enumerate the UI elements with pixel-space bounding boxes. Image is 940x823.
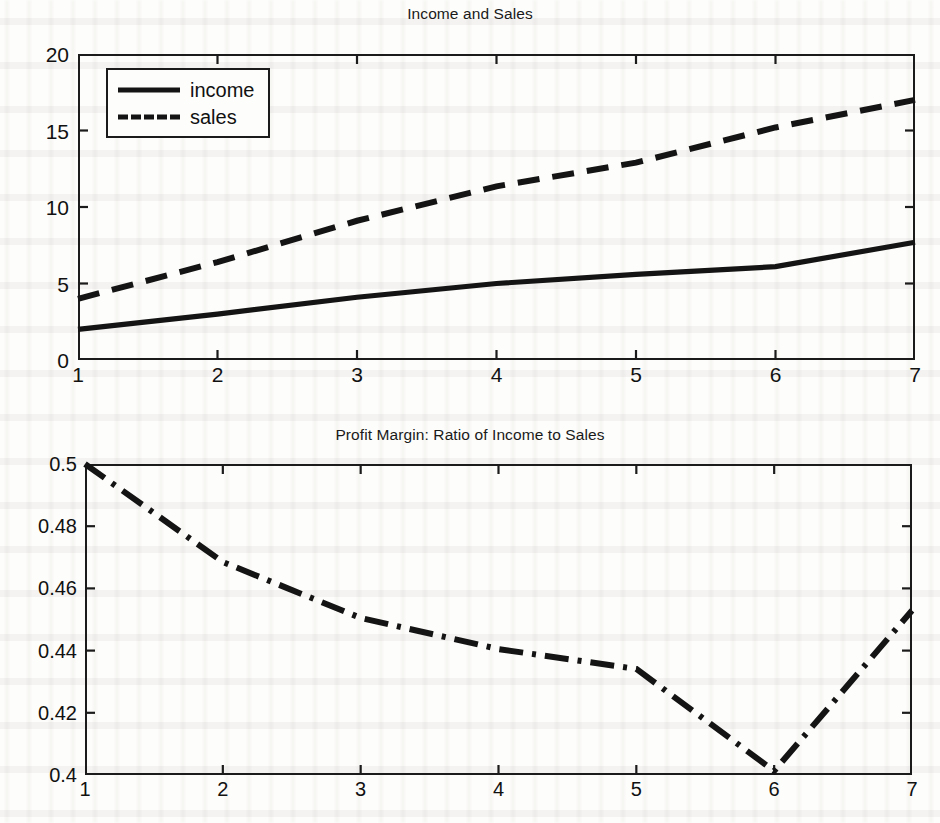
legend-label-income: income: [190, 80, 254, 100]
legend-item-sales: sales: [118, 103, 254, 130]
series-line-income-sales: [85, 464, 912, 771]
x-axis-tick-label: 5: [631, 775, 642, 799]
y-axis-tick-label: 20: [46, 44, 78, 65]
y-axis-tick-label: 15: [46, 120, 78, 141]
plot-area-income-and-sales: income sales 051015201234567: [78, 54, 915, 360]
y-axis-tick-label: 0.44: [38, 641, 85, 661]
x-axis-tick-label: 3: [351, 360, 363, 385]
plot-area-profit-margin: 0.40.420.440.460.480.51234567: [85, 464, 912, 775]
x-axis-tick-label: 6: [769, 775, 780, 799]
figure-income-and-sales: Income and Sales income sales 0510152012…: [0, 0, 940, 400]
figure-profit-margin: Profit Margin: Ratio of Income to Sales …: [0, 400, 940, 823]
x-axis-tick-label: 4: [493, 775, 504, 799]
y-axis-tick-label: 0.48: [38, 516, 85, 536]
legend-swatch-income: [118, 83, 180, 97]
y-axis-tick-label: 0.5: [49, 454, 85, 474]
x-axis-tick-label: 7: [909, 360, 921, 385]
legend-income-and-sales: income sales: [106, 68, 270, 138]
y-axis-tick-label: 0.42: [38, 703, 85, 723]
x-axis-tick-label: 2: [212, 360, 224, 385]
x-axis-tick-label: 4: [491, 360, 503, 385]
legend-swatch-sales: [118, 110, 180, 124]
chart-title-profit-margin: Profit Margin: Ratio of Income to Sales: [0, 426, 940, 444]
x-axis-tick-label: 7: [906, 775, 917, 799]
y-axis-tick-label: 0.46: [38, 578, 85, 598]
legend-label-sales: sales: [190, 107, 237, 127]
series-canvas-profit-margin: [85, 464, 912, 775]
y-axis-tick-label: 10: [46, 197, 78, 218]
legend-item-income: income: [118, 76, 254, 103]
x-axis-tick-label: 6: [770, 360, 782, 385]
x-axis-tick-label: 1: [79, 775, 90, 799]
chart-title-income-and-sales: Income and Sales: [0, 5, 940, 23]
series-line-income: [78, 242, 915, 329]
y-axis-tick-label: 5: [57, 273, 78, 294]
x-axis-tick-label: 3: [355, 775, 366, 799]
x-axis-tick-label: 1: [72, 360, 84, 385]
x-axis-tick-label: 2: [217, 775, 228, 799]
x-axis-tick-label: 5: [630, 360, 642, 385]
